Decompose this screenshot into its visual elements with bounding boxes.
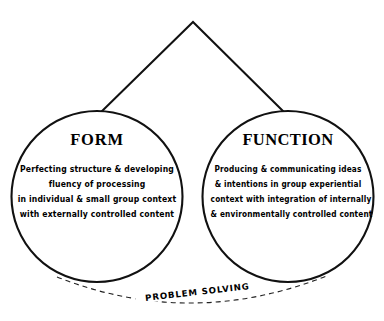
form-lobe: FORM Perfecting structure & developing f…: [11, 110, 183, 283]
form-body-line: in individual & small group context: [17, 192, 177, 207]
form-heading: FORM: [11, 132, 183, 149]
form-body-line: with externally controlled content: [17, 207, 177, 222]
function-lobe: FUNCTION Producing & communicating ideas…: [202, 110, 374, 283]
function-body-line: Producing & communicating ideas: [211, 162, 366, 177]
function-body-text: Producing & communicating ideas & intent…: [211, 162, 366, 223]
function-body-line: & environmentally controlled content: [211, 207, 366, 222]
function-body-line: context with integration of internally: [211, 192, 366, 207]
form-body-line: Perfecting structure & developing: [17, 162, 177, 177]
form-body-text: Perfecting structure & developing fluenc…: [17, 162, 177, 223]
function-body-line: & intentions in group experiential: [211, 177, 366, 192]
diagram-canvas: FORM Perfecting structure & developing f…: [0, 0, 384, 321]
function-heading: FUNCTION: [202, 132, 374, 149]
form-body-line: fluency of processing: [17, 177, 177, 192]
peak-connector-line: [98, 22, 289, 116]
